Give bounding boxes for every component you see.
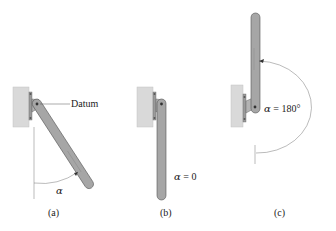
pivot-pin: [160, 103, 163, 106]
mounting-plate: [29, 92, 32, 120]
caption-b: (b): [160, 207, 172, 219]
angle-equation: α = 0: [174, 171, 196, 182]
caption-c: (c): [274, 207, 285, 219]
rod: [157, 99, 166, 200]
pivot-pin: [254, 106, 257, 109]
mounting-plate: [243, 94, 246, 122]
mounting-plate: [153, 92, 156, 120]
pivot-pin: [36, 103, 39, 106]
rod: [31, 97, 96, 190]
wall: [137, 87, 153, 127]
alpha-label: α: [56, 185, 63, 196]
wall: [13, 87, 29, 127]
panel-a: Datum α (a): [13, 87, 98, 219]
wall: [231, 85, 243, 127]
rod: [251, 13, 260, 113]
angle-arc: [34, 172, 78, 184]
caption-a: (a): [48, 207, 59, 219]
panel-c: α = 180° (c): [231, 13, 312, 219]
datum-label: Datum: [71, 98, 98, 109]
panel-b: α = 0 (b): [137, 87, 196, 219]
angle-equation: α = 180°: [264, 103, 300, 114]
pendulum-rod-diagram: Datum α (a) α = 0 (b): [0, 0, 336, 231]
